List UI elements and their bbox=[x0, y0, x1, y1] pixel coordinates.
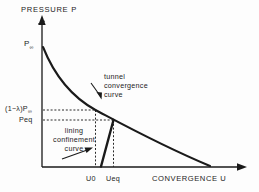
x-axis-title: CONVERGENCE U bbox=[152, 175, 226, 184]
annotation-tunnel-line-2: convergence bbox=[104, 81, 148, 90]
x-axis bbox=[42, 163, 247, 170]
annotation-tunnel-convergence-curve: tunnel convergence curve bbox=[104, 72, 148, 100]
tunnel-curve-leader-arrow bbox=[91, 83, 102, 100]
annotation-lining-line-2: confinement bbox=[46, 135, 102, 144]
tick-label-peq: Peq bbox=[19, 116, 33, 125]
y-axis-title: PRESSURE P bbox=[21, 6, 77, 15]
tick-label-u0: U0 bbox=[86, 175, 96, 184]
annotation-tunnel-line-3: curve bbox=[104, 90, 148, 99]
annotation-tunnel-line-1: tunnel bbox=[104, 72, 148, 81]
p-lambda-symbol: (1−λ)P bbox=[5, 104, 28, 113]
y-axis bbox=[38, 15, 46, 167]
annotation-lining-line-3: curve bbox=[46, 144, 102, 153]
tick-label-p-infinity: P∞ bbox=[24, 40, 33, 51]
lining-confinement-curve bbox=[101, 120, 114, 167]
tick-label-ueq: Ueq bbox=[106, 175, 120, 184]
annotation-lining-line-1: lining bbox=[46, 126, 102, 135]
p-lambda-subscript: ∞ bbox=[28, 108, 32, 114]
annotation-lining-confinement-curve: lining confinement curve bbox=[46, 126, 102, 154]
p-infinity-subscript: ∞ bbox=[30, 44, 34, 50]
convergence-confinement-figure: PRESSURE P CONVERGENCE U P∞ (1−λ)P∞ Peq … bbox=[0, 0, 259, 192]
